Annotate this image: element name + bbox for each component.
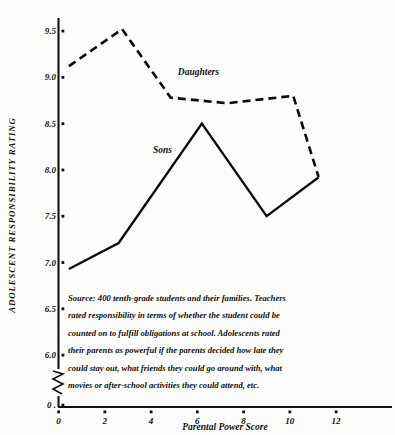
line-chart: 0 .6.06.57.07.58.08.59.09.5 024681012 Da… [0, 0, 395, 435]
x-tick-label: 10 [285, 416, 295, 426]
y-tick-mark [62, 261, 65, 264]
y-tick-label: 6.0 [45, 350, 57, 360]
source-note-line: movies or after-school activities they c… [68, 380, 259, 390]
y-tick-group: 0 .6.06.57.07.58.08.59.09.5 [45, 26, 65, 410]
source-note: Source: 400 tenth-grade students and the… [68, 293, 287, 390]
x-tick-mark [242, 411, 245, 414]
x-tick-label: 4 [148, 416, 154, 426]
y-tick-mark [62, 76, 65, 79]
x-tick-mark [150, 411, 153, 414]
x-tick-mark [196, 411, 199, 414]
y-tick-mark [62, 122, 65, 125]
y-tick-label: 7.0 [45, 258, 57, 268]
x-tick-mark [103, 411, 106, 414]
y-tick-label: 9.0 [45, 72, 57, 82]
x-tick-mark [57, 411, 60, 414]
y-tick-mark [62, 354, 65, 357]
y-axis-title: ADOLESCENT RESPONSIBILITY RATING [7, 117, 17, 314]
y-tick-mark [62, 215, 65, 218]
x-tick-mark [335, 411, 338, 414]
series-label-sons: Sons [153, 145, 172, 155]
series-label-daughters: Daughters [177, 67, 219, 77]
y-tick-mark [62, 404, 65, 407]
source-note-line: rated responsibility in terms of whether… [68, 310, 280, 320]
y-tick-mark [62, 169, 65, 172]
x-tick-label: 12 [332, 416, 342, 426]
source-note-line: could stay out, what friends they could … [68, 363, 283, 373]
chart-figure: 0 .6.06.57.07.58.08.59.09.5 024681012 Da… [0, 0, 395, 435]
x-tick-mark [288, 411, 291, 414]
y-tick-label: 8.0 [45, 165, 57, 175]
y-tick-label: 6.5 [45, 304, 57, 314]
series-line-daughters [69, 29, 319, 177]
y-tick-label: 9.5 [45, 26, 57, 36]
x-tick-label: 0 [56, 416, 61, 426]
axis-break-icon [53, 371, 63, 394]
source-note-line: their parents as powerful if the parents… [68, 345, 284, 355]
source-note-line: Source: 400 tenth-grade students and the… [68, 293, 287, 303]
source-note-line: counted on to fulfill obligations at sch… [68, 328, 281, 338]
x-axis-title: Parental Power Score [182, 422, 268, 432]
series-label-group: DaughtersSons [153, 67, 219, 156]
y-tick-mark [62, 30, 65, 33]
series-group [69, 29, 319, 269]
x-tick-label: 2 [102, 416, 108, 426]
series-line-sons [69, 124, 319, 269]
y-tick-label: 0 . [47, 400, 56, 410]
y-tick-label: 7.5 [45, 211, 57, 221]
y-tick-label: 8.5 [45, 119, 57, 129]
y-tick-mark [62, 307, 65, 310]
